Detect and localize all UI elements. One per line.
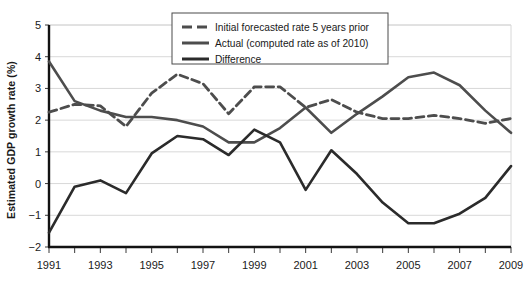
x-tick-label-2007: 2007 [447, 259, 471, 271]
y-tick-label--1: −1 [28, 209, 41, 221]
y-tick-label-0: 0 [35, 178, 41, 190]
legend-label-0: Initial forecasted rate 5 years prior [215, 22, 370, 33]
legend-label-2: Difference [215, 54, 262, 65]
y-tick-label-3: 3 [35, 82, 41, 94]
x-tick-label-2009: 2009 [499, 259, 523, 271]
x-tick-label-1999: 1999 [242, 259, 266, 271]
x-tick-label-2005: 2005 [396, 259, 420, 271]
y-tick-label-5: 5 [35, 19, 41, 31]
y-tick-label-4: 4 [35, 51, 41, 63]
x-tick-label-1997: 1997 [191, 259, 215, 271]
legend-label-1: Actual (computed rate as of 2010) [215, 38, 368, 49]
x-tick-label-2001: 2001 [293, 259, 317, 271]
x-tick-label-1991: 1991 [37, 259, 61, 271]
chart-canvas: 543210−1−2 19911993199519971999200120032… [0, 0, 531, 281]
y-tick-label-1: 1 [35, 146, 41, 158]
chart-legend: Initial forecasted rate 5 years priorAct… [172, 13, 388, 65]
y-tick-label-2: 2 [35, 114, 41, 126]
gdp-growth-rate-chart: 543210−1−2 19911993199519971999200120032… [0, 0, 531, 281]
x-tick-label-1995: 1995 [139, 259, 163, 271]
x-tick-label-1993: 1993 [88, 259, 112, 271]
x-tick-label-2003: 2003 [345, 259, 369, 271]
y-axis-title: Estimated GDP growth rate (%) [5, 61, 17, 219]
y-tick-label--2: −2 [28, 241, 41, 253]
